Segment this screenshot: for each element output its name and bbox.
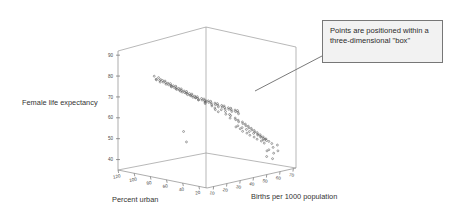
box-floor-back-left	[118, 153, 206, 170]
x-axis-label: Percent urban	[112, 195, 158, 204]
y-tick-label: 60	[108, 115, 114, 120]
box-edge-top-left	[118, 27, 206, 51]
data-point	[225, 113, 227, 115]
box-floor-back-right	[206, 153, 296, 168]
z-tick-label: 20	[222, 187, 228, 193]
data-point	[225, 111, 227, 113]
annotation-callout-text: Points are positioned within a three-dim…	[330, 26, 438, 47]
y-tick-label: 50	[108, 136, 114, 141]
data-point	[277, 150, 279, 152]
plot-box-frame	[118, 27, 296, 188]
x-tick-label: 20	[195, 190, 201, 196]
data-point	[272, 146, 274, 148]
data-point	[263, 142, 265, 144]
data-point	[237, 125, 239, 127]
data-point	[229, 117, 231, 119]
callout-leader-line	[255, 56, 322, 91]
x-tick-label: 80	[146, 180, 152, 186]
z-tick-label: 40	[249, 181, 255, 187]
z-tick-label: 10	[209, 190, 215, 196]
x-tick-label: 60	[162, 183, 168, 189]
y-tick-label: 40	[108, 157, 114, 162]
y-tick-label: 70	[108, 95, 114, 100]
z-tick-label: 50	[262, 178, 268, 184]
data-point	[248, 131, 250, 133]
x-tick-label: 100	[129, 177, 138, 183]
annotation-callout-box: Points are positioned within a three-dim…	[322, 20, 443, 63]
data-point	[235, 126, 237, 128]
x-axis-ticks: 12010080604020	[112, 170, 201, 196]
box-edge-top-right	[206, 27, 296, 47]
x-tick-label: 40	[178, 187, 184, 193]
data-point	[268, 149, 270, 151]
data-point	[158, 77, 160, 79]
data-point	[246, 132, 248, 134]
data-point	[245, 128, 247, 130]
data-point	[239, 128, 241, 130]
z-tick-label: 60	[275, 175, 281, 181]
data-point	[273, 152, 275, 154]
data-point	[242, 130, 244, 132]
data-point	[271, 143, 273, 145]
data-point	[272, 158, 274, 160]
z-axis-label: Births per 1000 population	[251, 192, 337, 201]
data-point	[183, 131, 185, 133]
data-point	[249, 134, 251, 136]
data-point	[220, 109, 222, 111]
data-point	[253, 136, 255, 138]
x-tick-label: 120	[112, 173, 121, 179]
data-point	[276, 144, 278, 146]
data-point	[186, 141, 188, 143]
data-point	[253, 132, 255, 134]
data-point	[153, 75, 155, 77]
data-point	[217, 111, 219, 113]
z-tick-label: 30	[235, 184, 241, 190]
y-tick-label: 80	[108, 74, 114, 79]
data-point	[260, 140, 262, 142]
z-tick-label: 70	[289, 172, 295, 178]
data-point	[256, 138, 258, 140]
data-point	[266, 150, 268, 152]
data-point	[268, 140, 270, 142]
data-point	[241, 127, 243, 129]
figure-screenshot: 908070605040 12010080604020 102030405060…	[0, 0, 458, 208]
y-tick-label: 90	[108, 53, 114, 58]
data-point	[266, 156, 268, 158]
y-axis-label: Female life expectancy	[22, 98, 98, 107]
